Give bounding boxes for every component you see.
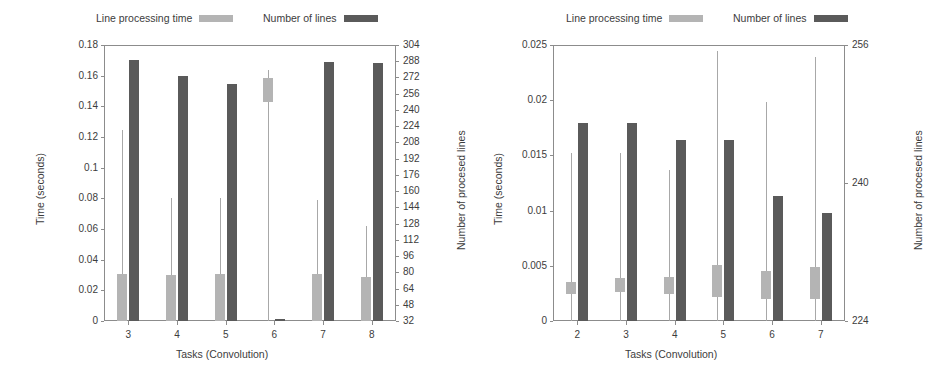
y-tick-mark bbox=[101, 76, 104, 77]
y-tick-label: 0.12 bbox=[58, 132, 98, 142]
y-tick-mark bbox=[101, 168, 104, 169]
x-tick-mark bbox=[323, 321, 324, 325]
y-tick-label: 0.02 bbox=[507, 95, 547, 105]
bar-line-processing-time bbox=[615, 278, 625, 292]
y-tick-mark bbox=[550, 155, 553, 156]
error-bar-whisker bbox=[620, 153, 621, 321]
y-tick-mark bbox=[101, 229, 104, 230]
chart-panel-right: Line processing time Number of lines Tim… bbox=[470, 0, 939, 371]
bar-number-of-lines bbox=[676, 140, 686, 321]
x-tick-label: 2 bbox=[557, 330, 597, 340]
y2-tick-mark bbox=[396, 142, 399, 143]
plot-area-left bbox=[104, 45, 396, 321]
legend-entry-number-of-lines: Number of lines bbox=[733, 12, 848, 24]
y2-tick-label: 32 bbox=[403, 316, 437, 326]
x-axis-title-left: Tasks (Convolution) bbox=[176, 348, 268, 360]
y2-tick-mark bbox=[396, 305, 399, 306]
y2-tick-label: 176 bbox=[403, 170, 437, 180]
chart-panel-left: Line processing time Number of lines Tim… bbox=[0, 0, 469, 371]
bar-number-of-lines bbox=[724, 140, 734, 321]
y2-tick-mark bbox=[845, 183, 848, 184]
x-tick-label: 5 bbox=[703, 330, 743, 340]
y-tick-label: 0.04 bbox=[58, 255, 98, 265]
y-tick-label: 0.1 bbox=[58, 163, 98, 173]
x-tick-mark bbox=[226, 321, 227, 325]
y-tick-mark bbox=[101, 198, 104, 199]
y2-axis-title-right: Number of procesed lines bbox=[912, 130, 924, 250]
y2-tick-mark bbox=[396, 272, 399, 273]
y2-tick-mark bbox=[396, 240, 399, 241]
x-tick-label: 3 bbox=[606, 330, 646, 340]
bar-number-of-lines bbox=[129, 60, 139, 321]
bar-line-processing-time bbox=[566, 282, 576, 294]
y2-tick-label: 64 bbox=[403, 284, 437, 294]
bar-number-of-lines bbox=[373, 63, 383, 321]
legend-swatch-light-icon bbox=[669, 15, 703, 22]
plot-area-right bbox=[553, 45, 845, 321]
bar-number-of-lines bbox=[578, 123, 588, 321]
x-tick-mark bbox=[128, 321, 129, 325]
y2-tick-mark bbox=[396, 321, 399, 322]
x-tick-mark bbox=[821, 321, 822, 325]
legend-label-number-of-lines: Number of lines bbox=[263, 12, 337, 24]
y-tick-label: 0 bbox=[58, 316, 98, 326]
y2-tick-mark bbox=[396, 289, 399, 290]
y-tick-label: 0.025 bbox=[507, 40, 547, 50]
y2-tick-label: 48 bbox=[403, 300, 437, 310]
y-tick-mark bbox=[550, 266, 553, 267]
x-tick-mark bbox=[675, 321, 676, 325]
legend-right: Line processing time Number of lines bbox=[470, 12, 939, 30]
x-tick-label: 6 bbox=[752, 330, 792, 340]
y2-tick-mark bbox=[396, 126, 399, 127]
x-tick-mark bbox=[723, 321, 724, 325]
y-tick-mark bbox=[101, 260, 104, 261]
y-tick-label: 0.06 bbox=[58, 224, 98, 234]
y-tick-label: 0 bbox=[507, 316, 547, 326]
bar-line-processing-time bbox=[810, 267, 820, 300]
bar-line-processing-time bbox=[312, 274, 322, 321]
bar-number-of-lines bbox=[324, 62, 334, 321]
y2-tick-mark bbox=[396, 94, 399, 95]
y2-tick-mark bbox=[845, 45, 848, 46]
y2-tick-label: 240 bbox=[852, 178, 886, 188]
y-tick-mark bbox=[550, 321, 553, 322]
bar-line-processing-time bbox=[361, 277, 371, 321]
bar-line-processing-time bbox=[117, 274, 127, 321]
y-tick-label: 0.08 bbox=[58, 193, 98, 203]
x-axis-title-right: Tasks (Convolution) bbox=[625, 348, 717, 360]
x-tick-label: 7 bbox=[801, 330, 841, 340]
x-tick-mark bbox=[577, 321, 578, 325]
bar-line-processing-time bbox=[664, 277, 674, 294]
legend-entry-line-processing-time: Line processing time bbox=[96, 12, 233, 24]
y-tick-mark bbox=[101, 321, 104, 322]
x-tick-mark bbox=[274, 321, 275, 325]
y2-tick-label: 224 bbox=[852, 316, 886, 326]
y-tick-label: 0.01 bbox=[507, 206, 547, 216]
legend-label-line-processing-time: Line processing time bbox=[566, 12, 662, 24]
x-tick-mark bbox=[372, 321, 373, 325]
legend-swatch-dark-icon bbox=[344, 15, 378, 22]
x-tick-label: 7 bbox=[303, 330, 343, 340]
y2-tick-label: 80 bbox=[403, 267, 437, 277]
y-tick-mark bbox=[550, 45, 553, 46]
x-tick-mark bbox=[626, 321, 627, 325]
legend-entry-line-processing-time: Line processing time bbox=[566, 12, 703, 24]
y-tick-label: 0.14 bbox=[58, 101, 98, 111]
y-tick-mark bbox=[101, 290, 104, 291]
error-bar-whisker bbox=[669, 170, 670, 321]
y-tick-mark bbox=[550, 100, 553, 101]
y2-tick-label: 96 bbox=[403, 251, 437, 261]
error-bar-whisker bbox=[268, 70, 269, 321]
bar-number-of-lines bbox=[178, 76, 188, 321]
y-tick-label: 0.015 bbox=[507, 150, 547, 160]
figure-two-panel-bar-charts: Line processing time Number of lines Tim… bbox=[0, 0, 939, 371]
y-tick-mark bbox=[101, 45, 104, 46]
y2-tick-mark bbox=[396, 77, 399, 78]
y2-tick-mark bbox=[396, 110, 399, 111]
y2-tick-label: 304 bbox=[403, 40, 437, 50]
bar-line-processing-time bbox=[263, 78, 273, 103]
y2-tick-mark bbox=[396, 191, 399, 192]
legend-swatch-light-icon bbox=[199, 15, 233, 22]
x-tick-mark bbox=[772, 321, 773, 325]
y2-tick-label: 288 bbox=[403, 56, 437, 66]
